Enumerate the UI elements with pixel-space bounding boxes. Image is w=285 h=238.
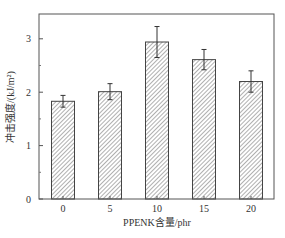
x-axis-title: PPENK含量/phr: [123, 216, 191, 228]
x-tick-label: 0: [61, 203, 66, 214]
bar-0: [52, 101, 75, 199]
bars-group: [52, 42, 263, 199]
x-tick-label: 10: [152, 203, 162, 214]
y-tick-label: 1: [26, 140, 31, 151]
bar-5: [99, 92, 122, 199]
y-tick-label: 0: [26, 194, 31, 205]
bar-10: [146, 42, 169, 199]
y-axis-ticks: 0123: [26, 33, 43, 204]
y-tick-label: 3: [26, 33, 31, 44]
y-axis-title: 冲击强度/(kJ/m²): [4, 71, 17, 143]
x-tick-label: 20: [246, 203, 256, 214]
x-tick-label: 5: [108, 203, 113, 214]
bar-20: [240, 82, 263, 199]
bar-chart: 0123 05101520 PPENK含量/phr 冲击强度/(kJ/m²): [0, 0, 285, 238]
x-tick-label: 15: [199, 203, 209, 214]
bar-15: [193, 60, 216, 199]
y-tick-label: 2: [26, 87, 31, 98]
